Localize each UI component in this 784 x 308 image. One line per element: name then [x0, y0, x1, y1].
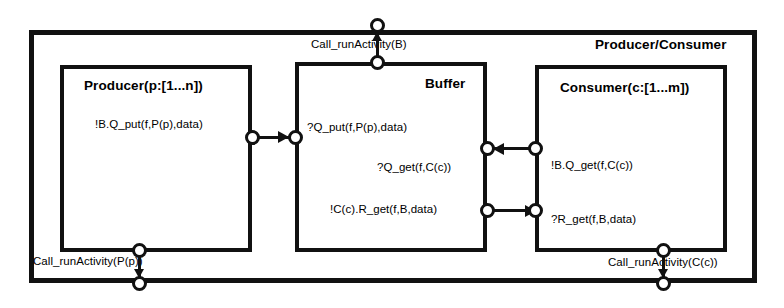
port-buffer-left[interactable] — [288, 130, 303, 145]
signal-buffer-get: ?Q_get(f,C(c)) — [377, 161, 451, 173]
port-buffer-right-reply[interactable] — [480, 203, 495, 218]
signal-buffer-reply: !C(c).R_get(f,B,data) — [330, 203, 437, 215]
frame-title: Producer/Consumer — [595, 37, 726, 52]
signal-consumer-get: !B.Q_get(f,C(c)) — [551, 159, 633, 171]
port-producer-bottom[interactable] — [132, 243, 147, 258]
port-frame-top[interactable] — [370, 18, 385, 33]
signal-consumer-reply: ?R_get(f,B,data) — [551, 213, 636, 225]
part-title-consumer: Consumer(c:[1...m]) — [560, 80, 689, 95]
port-consumer-left-get[interactable] — [528, 141, 543, 156]
port-frame-bottom-right[interactable] — [656, 276, 671, 291]
part-title-producer: Producer(p:[1...n]) — [84, 78, 203, 93]
signal-buffer-put: ?Q_put(f,P(p),data) — [307, 121, 407, 133]
port-buffer-top[interactable] — [370, 55, 385, 70]
arrowhead-call-buffer — [372, 32, 382, 41]
port-buffer-right-get[interactable] — [480, 141, 495, 156]
part-title-buffer: Buffer — [425, 76, 465, 91]
port-consumer-bottom[interactable] — [656, 243, 671, 258]
part-box-producer — [60, 65, 252, 252]
port-frame-bottom-left[interactable] — [132, 276, 147, 291]
label-call-buffer: Call_runActivity(B) — [311, 38, 407, 50]
producer-consumer-diagram: Producer/Consumer Producer(p:[1...n]) !B… — [0, 0, 784, 308]
signal-producer-put: !B.Q_put(f,P(p),data) — [95, 118, 203, 130]
port-consumer-left-reply[interactable] — [528, 203, 543, 218]
label-call-producer: Call_runActivity(P(p)) — [33, 255, 143, 267]
port-producer-right[interactable] — [245, 130, 260, 145]
